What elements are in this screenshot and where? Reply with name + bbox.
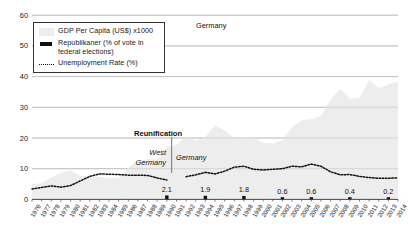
legend-item-unemployment: Unemployment Rate (%)	[39, 59, 159, 68]
republikaner-bar-1998	[242, 196, 245, 199]
bar-value-label-2009: 0.4	[338, 187, 362, 196]
annotation-west-germany-line2: Germany	[122, 158, 166, 168]
bar-swatch-icon	[39, 40, 54, 48]
chart-legend: GDP Per Capita (US$) x1000 Republikaner …	[33, 22, 165, 73]
y-tick-0: 0	[12, 195, 28, 204]
dotted-line-swatch-icon	[39, 60, 54, 68]
annotation-germany-mid: Germany	[176, 153, 206, 162]
bar-value-label-2013: 0.2	[376, 187, 400, 196]
legend-label-republikaner: Republikaner (% of vote in federal elect…	[58, 39, 159, 56]
annotation-west-germany-line1: West	[122, 148, 166, 158]
republikaner-bar-1990	[165, 195, 168, 199]
annotation-germany-top: Germany	[196, 21, 226, 30]
y-tick-30: 30	[12, 103, 28, 112]
y-tick-60: 60	[12, 11, 28, 20]
y-tick-40: 40	[12, 72, 28, 81]
annotation-west-germany: West Germany	[122, 148, 166, 167]
legend-label-unemployment: Unemployment Rate (%)	[58, 59, 138, 68]
y-tick-50: 50	[12, 41, 28, 50]
bar-value-label-1994: 1.9	[193, 185, 217, 194]
legend-item-gdp: GDP Per Capita (US$) x1000	[39, 27, 159, 36]
legend-label-gdp: GDP Per Capita (US$) x1000	[58, 27, 153, 36]
bar-value-label-1990: 2.1	[155, 185, 179, 194]
area-swatch-icon	[39, 28, 54, 36]
annotation-reunification: Reunification	[134, 129, 182, 138]
bar-value-label-2005: 0.6	[299, 187, 323, 196]
y-tick-20: 20	[12, 134, 28, 143]
republikaner-bar-1994	[204, 196, 207, 200]
legend-item-republikaner: Republikaner (% of vote in federal elect…	[39, 39, 159, 56]
bar-value-label-1998: 1.8	[232, 185, 256, 194]
bar-value-label-2002: 0.6	[270, 187, 294, 196]
gdp-area-series	[32, 80, 398, 199]
y-tick-10: 10	[12, 164, 28, 173]
